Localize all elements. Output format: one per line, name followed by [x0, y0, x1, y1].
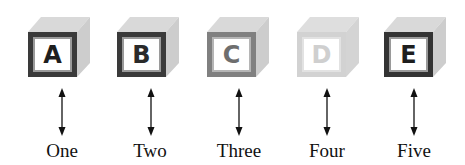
double-arrow-icon — [57, 88, 67, 136]
label-two: Two — [110, 140, 190, 162]
block-a-letter: A — [28, 32, 77, 77]
block-d-letter: D — [297, 32, 346, 77]
double-arrow-icon — [322, 88, 332, 136]
block-a: A — [28, 17, 90, 77]
label-four: Four — [287, 140, 367, 162]
block-c-letter: C — [207, 32, 256, 77]
block-d: D — [297, 17, 359, 77]
block-b-letter: B — [117, 32, 166, 77]
block-b: B — [117, 17, 179, 77]
label-five: Five — [374, 140, 454, 162]
label-one: One — [22, 140, 102, 162]
block-e-letter: E — [384, 32, 433, 77]
block-e: E — [384, 17, 446, 77]
block-c: C — [207, 17, 269, 77]
double-arrow-icon — [409, 88, 419, 136]
label-three: Three — [199, 140, 279, 162]
double-arrow-icon — [234, 88, 244, 136]
double-arrow-icon — [146, 88, 156, 136]
